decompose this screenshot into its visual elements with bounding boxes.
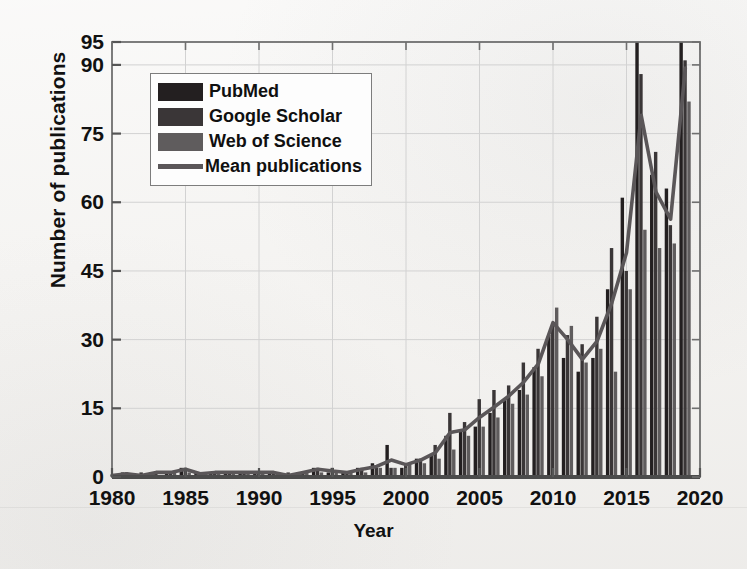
- legend-item-mean-publications: Mean publications: [158, 154, 362, 179]
- legend-item-google-scholar: Google Scholar: [158, 104, 362, 129]
- legend-item-label: Web of Science: [209, 131, 342, 152]
- publications-bar-chart: Number of publications Year 015304560759…: [0, 0, 747, 569]
- legend-item-label: Google Scholar: [209, 106, 342, 127]
- legend-item-label: PubMed: [209, 81, 279, 102]
- chart-legend: PubMedGoogle ScholarWeb of ScienceMean p…: [150, 73, 372, 186]
- legend-color-swatch: [158, 133, 203, 151]
- x-tick-label: 2020: [655, 486, 745, 510]
- x-axis-tick-labels: 198019851990199520002005201020152020: [0, 0, 747, 569]
- legend-item-pubmed: PubMed: [158, 79, 362, 104]
- legend-line-swatch: [158, 164, 203, 169]
- legend-item-label: Mean publications: [205, 156, 362, 177]
- legend-color-swatch: [158, 83, 203, 101]
- legend-color-swatch: [158, 108, 203, 126]
- legend-item-web-of-science: Web of Science: [158, 129, 362, 154]
